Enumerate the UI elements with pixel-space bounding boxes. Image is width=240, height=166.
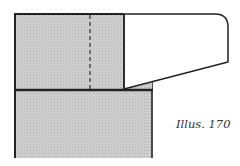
lower-block: [15, 82, 152, 158]
illustration: [0, 0, 240, 166]
overhanging-piece: [124, 14, 228, 89]
illustration-caption: Illus. 170: [176, 117, 230, 131]
upper-block: [15, 14, 124, 90]
